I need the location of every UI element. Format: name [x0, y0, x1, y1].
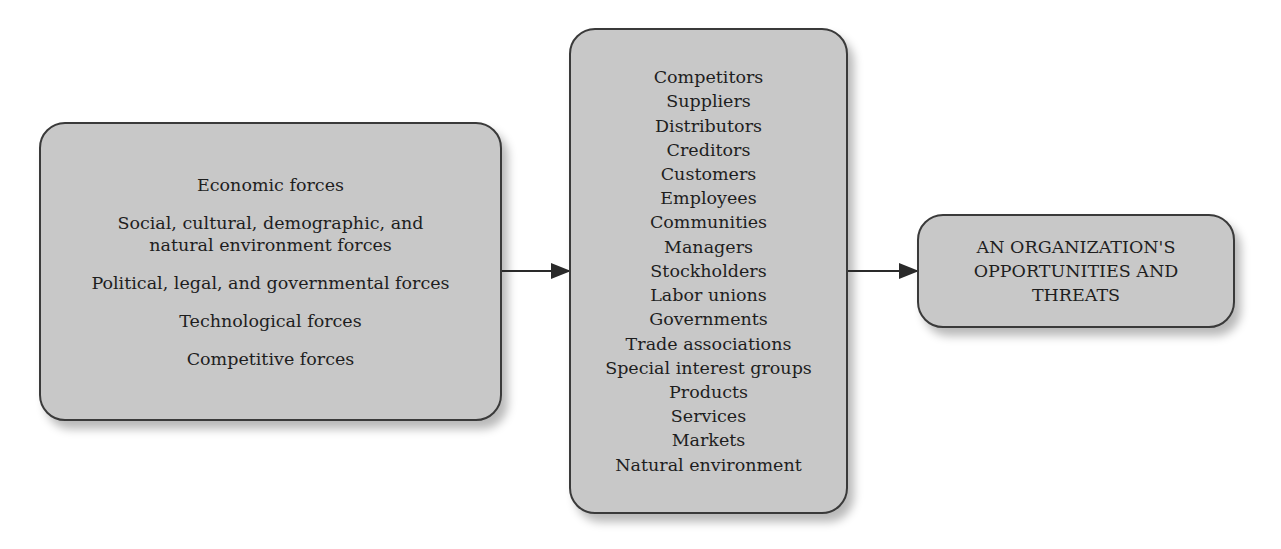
- force-label: natural environment forces: [117, 234, 423, 256]
- stakeholder-item: Labor unions: [650, 283, 767, 307]
- stakeholder-item: Suppliers: [666, 89, 751, 113]
- stakeholders-box: Competitors Suppliers Distributors Credi…: [569, 28, 848, 514]
- stakeholder-item: Stockholders: [650, 259, 766, 283]
- arrow-forces-to-stakeholders: [502, 270, 569, 272]
- arrow-stakeholders-to-outcome: [848, 270, 917, 272]
- stakeholder-item: Employees: [660, 186, 756, 210]
- stakeholder-item: Natural environment: [615, 453, 802, 477]
- stakeholder-item: Distributors: [655, 114, 762, 138]
- stakeholder-item: Customers: [661, 162, 757, 186]
- stakeholder-item: Creditors: [667, 138, 751, 162]
- stakeholder-item: Governments: [649, 307, 768, 331]
- force-label: Social, cultural, demographic, and: [117, 212, 423, 234]
- opportunities-threats-box: AN ORGANIZATION'S OPPORTUNITIES AND THRE…: [917, 214, 1235, 328]
- force-label: Political, legal, and governmental force…: [91, 272, 449, 294]
- force-item: Technological forces: [179, 310, 361, 332]
- stakeholder-item: Communities: [650, 210, 767, 234]
- force-item: Social, cultural, demographic, and natur…: [117, 212, 423, 256]
- force-item: Political, legal, and governmental force…: [91, 272, 449, 294]
- stakeholder-item: Services: [671, 404, 746, 428]
- arrowhead-icon: [899, 263, 919, 279]
- force-label: Technological forces: [179, 310, 361, 332]
- force-label: Economic forces: [197, 174, 344, 196]
- external-forces-box: Economic forces Social, cultural, demogr…: [39, 122, 502, 421]
- outcome-line: AN ORGANIZATION'S: [977, 235, 1176, 259]
- stakeholder-item: Trade associations: [626, 332, 792, 356]
- stakeholder-item: Competitors: [654, 65, 764, 89]
- stakeholder-item: Markets: [672, 428, 746, 452]
- force-label: Competitive forces: [187, 348, 355, 370]
- outcome-line: OPPORTUNITIES AND: [974, 259, 1179, 283]
- force-item: Economic forces: [197, 174, 344, 196]
- stakeholder-item: Special interest groups: [605, 356, 812, 380]
- force-item: Competitive forces: [187, 348, 355, 370]
- arrowhead-icon: [551, 263, 571, 279]
- outcome-line: THREATS: [1032, 283, 1120, 307]
- stakeholder-item: Products: [669, 380, 748, 404]
- stakeholder-item: Managers: [664, 235, 753, 259]
